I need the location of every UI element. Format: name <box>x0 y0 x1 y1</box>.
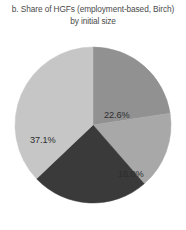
pie-slice-label-3: 37.1% <box>30 135 56 145</box>
chart-title: b. Share of HGFs (employment-based, Birc… <box>0 4 186 27</box>
pie-chart-figure: b. Share of HGFs (employment-based, Birc… <box>0 0 186 230</box>
pie-svg <box>0 30 186 230</box>
chart-title-line-2: by initial size <box>0 16 186 28</box>
pie-slice-label-2: 24.3% <box>71 212 97 222</box>
pie-slice-label-1: 16.0% <box>118 169 144 179</box>
chart-title-line-1: b. Share of HGFs (employment-based, Birc… <box>0 4 186 16</box>
pie-plot-area: 22.6% 16.0% 24.3% 37.1% <box>0 30 186 230</box>
pie-slice-label-0: 22.6% <box>104 110 130 120</box>
pie-slice-group <box>15 47 171 203</box>
